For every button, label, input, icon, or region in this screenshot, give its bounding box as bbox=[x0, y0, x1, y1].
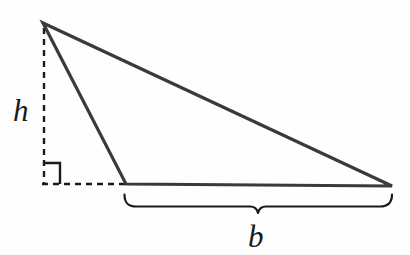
base-label: b bbox=[248, 221, 264, 252]
right-angle-marker-icon bbox=[44, 163, 60, 184]
base-brace bbox=[125, 195, 393, 214]
geometry-figure: h b bbox=[0, 0, 410, 255]
height-label: h bbox=[13, 95, 29, 126]
triangle-shape bbox=[43, 23, 392, 186]
figure-canvas bbox=[0, 0, 410, 255]
